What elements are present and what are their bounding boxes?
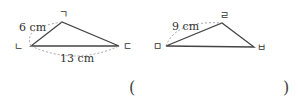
vertex-label-mieum: ㅁ bbox=[153, 41, 162, 52]
triangle-2: ㄹ ㅁ ㅂ 9 cm bbox=[153, 10, 266, 53]
vertex-label-digeut: ㄷ bbox=[123, 41, 132, 52]
vertex-label-rieul: ㄹ bbox=[220, 10, 229, 21]
side-label-6cm: 6 cm bbox=[19, 21, 47, 34]
triangle-1: ㄱ ㄴ ㄷ 6 cm 13 cm bbox=[14, 9, 132, 65]
vertex-label-giyeok: ㄱ bbox=[59, 9, 68, 20]
side-label-9cm: 9 cm bbox=[172, 20, 200, 33]
vertex-label-nieun: ㄴ bbox=[14, 41, 23, 52]
side-label-13cm: 13 cm bbox=[60, 52, 95, 65]
vertex-label-bieup: ㅂ bbox=[257, 42, 266, 53]
answer-close-paren: ) bbox=[283, 78, 289, 97]
answer-blank[interactable] bbox=[142, 80, 280, 98]
answer-open-paren: ( bbox=[129, 78, 135, 97]
